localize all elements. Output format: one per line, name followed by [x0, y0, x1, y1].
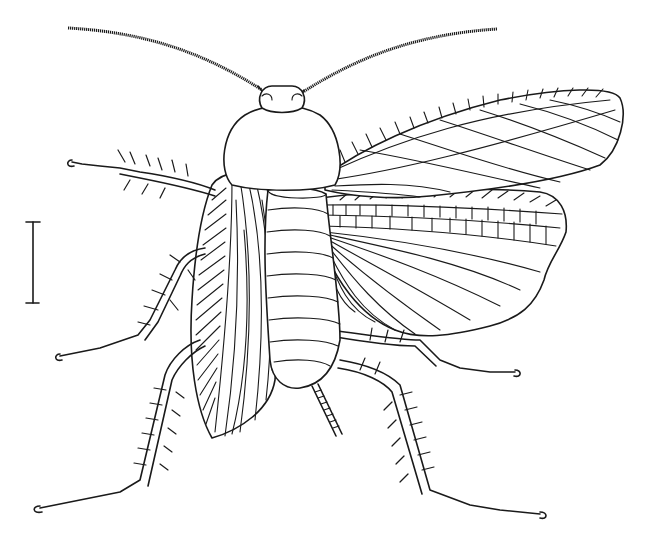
cockroach-illustration	[0, 0, 646, 535]
head	[260, 86, 305, 113]
hind-wing	[320, 189, 566, 336]
scale-bar	[26, 222, 40, 303]
pronotum	[224, 106, 340, 198]
left-forewing	[191, 173, 277, 438]
forewing	[325, 88, 623, 198]
illustration-canvas	[0, 0, 646, 535]
